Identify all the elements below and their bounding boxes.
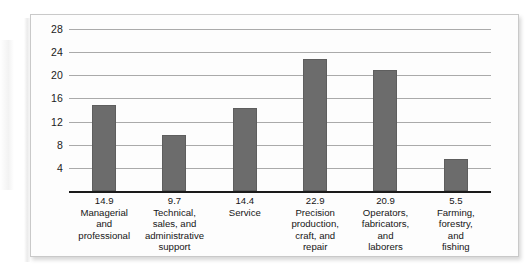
y-tick-label: 24 [31,47,63,58]
bar[interactable] [373,70,397,191]
bar-slot [421,15,491,191]
bar-value-label: 14.9 [69,195,139,206]
y-tick-label: 20 [31,70,63,81]
category-label: 22.9Precision production, craft, and rep… [280,195,350,253]
bar-chart-plot: 282420161284 14.9Managerial and professi… [31,15,520,258]
bar-value-label: 5.5 [421,195,491,206]
bar-value-label: 14.4 [210,195,280,206]
bar-slot [280,15,350,191]
bar-slot [210,15,280,191]
category-name: Precision production, craft, and repair [280,207,350,253]
bar[interactable] [444,159,468,191]
y-tick-label: 28 [31,24,63,35]
category-label: 14.9Managerial and professional [69,195,139,241]
category-name: Technical, sales, and administrative sup… [139,207,209,253]
bar-value-label: 9.7 [139,195,209,206]
x-axis-baseline [69,191,491,193]
category-name: Managerial and professional [69,207,139,241]
category-label: 9.7Technical, sales, and administrative … [139,195,209,253]
bar[interactable] [92,105,116,191]
y-tick-label: 8 [31,140,63,151]
bar-slot [350,15,420,191]
category-labels: 14.9Managerial and professional9.7Techni… [69,195,491,257]
y-tick-label: 12 [31,117,63,128]
bar-value-label: 20.9 [350,195,420,206]
category-label: 5.5Farming, forestry, and fishing [421,195,491,253]
bar[interactable] [303,59,327,191]
bar[interactable] [233,108,257,191]
bars-group [69,15,491,191]
category-label: 14.4Service [210,195,280,218]
category-name: Operators, fabricators, and laborers [350,207,420,253]
category-label: 20.9Operators, fabricators, and laborers [350,195,420,253]
y-tick-label: 4 [31,163,63,174]
category-name: Farming, forestry, and fishing [421,207,491,253]
y-tick-label: 16 [31,93,63,104]
chart-frame: 282420161284 14.9Managerial and professi… [30,14,519,257]
bar-slot [139,15,209,191]
bar-slot [69,15,139,191]
scan-edge-artifact [0,40,14,190]
y-axis: 282420161284 [31,15,63,258]
bar-value-label: 22.9 [280,195,350,206]
category-name: Service [210,207,280,218]
bar[interactable] [162,135,186,191]
